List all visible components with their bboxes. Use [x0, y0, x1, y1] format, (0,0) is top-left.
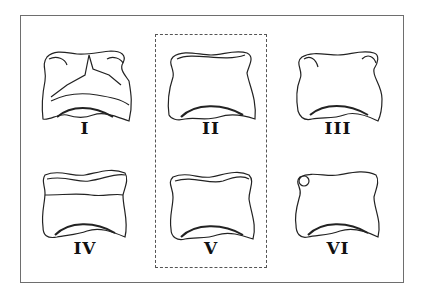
panel-label-iv: IV [37, 238, 133, 258]
panel-label-ii: II [163, 118, 259, 138]
panel-label-vi: VI [290, 238, 386, 258]
panel-label-v: V [163, 238, 259, 258]
panel-label-i: I [37, 118, 133, 138]
panel-label-iii: III [290, 118, 386, 138]
